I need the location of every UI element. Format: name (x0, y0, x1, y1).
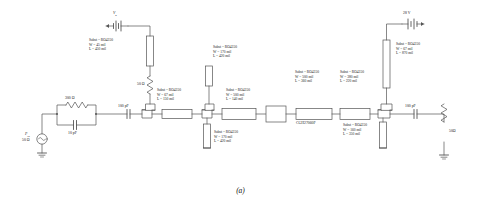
tline-input-stub-lower (204, 124, 211, 148)
tjunction-input-2 (202, 110, 212, 118)
tline-output-stub-lower (380, 122, 387, 148)
resistor-50ohm-gate-label: 50 Ω (137, 82, 145, 86)
load-50ohm-label: 50Ω (449, 129, 456, 133)
tline-drain-bias-stub (383, 40, 390, 88)
tline-input-series-2-label: Subst = RO4350 W = 500 mil L = 140 mil (226, 88, 250, 102)
tjunction-output (378, 110, 390, 118)
source-impedance-label: 50 Ω (22, 138, 30, 142)
resistor-300ohm (66, 102, 88, 108)
tline-output-series-1-label: Subst = RO4350 W = 500 mil L = 360 mil (295, 70, 319, 84)
tline-input-series-1 (162, 110, 192, 119)
drain-bias-label: 28 V (403, 11, 410, 15)
tjunction-gate (142, 110, 152, 118)
tline-input-stub-lower-label: Subst = RO4350 W = 170 mil L = 420 mil (214, 130, 238, 144)
transistor-part-label: CGH27060F (296, 121, 316, 125)
cap-10pf-label: 10 pF (68, 131, 77, 135)
resistor-50ohm-gate (147, 76, 153, 94)
vg-label: Vg (113, 11, 117, 17)
tline-input-stub-upper-label: Subst = RO4350 W = 170 mil L = 420 mil (213, 45, 237, 59)
tline-drain-bias-stub-label: Subst = RO4350 W = 67 mil L = 870 mil (396, 42, 420, 56)
tline-gate-bias-stub-label: Subst = RO4350 W = 45 mil L = 450 mil (89, 38, 113, 52)
tline-output-series-2-label: Subst = RO4350 W = 380 mil L = 220 mil (340, 70, 364, 84)
cap-100pf-in-label: 100 pF (118, 104, 129, 108)
source-power-label: Pin (25, 132, 30, 136)
source-label: Pin 50 Ω (22, 132, 30, 142)
schematic-figure: Pin 50 Ω 300 Ω 10 pF 100 pF 50 Ω Vg 28 V… (0, 0, 481, 203)
transistor-body (266, 106, 286, 122)
resistor-300ohm-label: 300 Ω (65, 96, 74, 100)
tline-output-series-2 (340, 109, 370, 120)
tline-input-stub-upper (206, 66, 213, 86)
tline-output-stub-lower-label: Subst = RO4350 W = 160 mil L = 350 mil (343, 123, 367, 137)
tline-gate-bias-stub (147, 36, 154, 66)
tline-input-series-1-label: Subst = RO4350 W = 67 mil L = 150 mil (157, 88, 181, 102)
tline-input-series-2 (222, 109, 256, 120)
cap-100pf-out-label: 100 pF (405, 104, 416, 108)
figure-caption: (a) (0, 186, 481, 195)
tline-output-series-1 (296, 109, 332, 120)
